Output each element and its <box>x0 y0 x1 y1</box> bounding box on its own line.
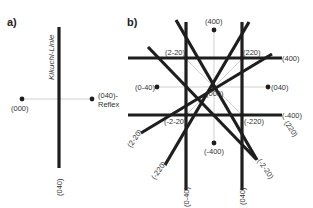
label-neg-2-20: (-2-20) <box>164 117 187 126</box>
origin-spot <box>20 97 25 102</box>
label-line-220: (220) <box>282 119 300 139</box>
kikuchi-line-label: Kikuchi-Linie <box>47 34 56 80</box>
label-2-20: (2-20) <box>165 48 186 57</box>
panel-b-label: b) <box>127 16 138 28</box>
label-400: (400) <box>205 17 223 26</box>
label-0-40: (0-40) <box>135 83 156 92</box>
label-line-neg-2-20: (-2-20) <box>255 157 276 181</box>
label-line-neg-400: (-400) <box>282 111 303 120</box>
reflex-label-1: (040)- <box>98 91 119 100</box>
label-220: (220) <box>243 48 261 57</box>
label-neg-220: (-220) <box>244 117 265 126</box>
kikuchi-diagram: a) Kikuchi-Linie (040) (000) (040)- Refl… <box>0 0 313 208</box>
label-line-040: (040) <box>238 187 247 205</box>
label-000: (000) <box>206 89 224 98</box>
panel-a-label: a) <box>7 16 17 28</box>
reflex-spot <box>90 97 95 102</box>
spot-400-neg <box>212 141 217 146</box>
label-line-0-40: (0-40) <box>182 186 191 207</box>
kikuchi-line-end-label: (040) <box>55 178 64 196</box>
spot-0-40 <box>155 85 160 90</box>
label-neg-400: (-400) <box>204 147 225 156</box>
label-line-2-20: (2-20) <box>125 127 144 149</box>
spot-400 <box>212 28 217 33</box>
origin-spot-label: (000) <box>11 104 29 113</box>
label-line-400: (400) <box>282 54 300 63</box>
label-040: (040) <box>271 83 289 92</box>
reflex-label-2: Reflex <box>98 100 120 109</box>
spot-040 <box>266 85 271 90</box>
